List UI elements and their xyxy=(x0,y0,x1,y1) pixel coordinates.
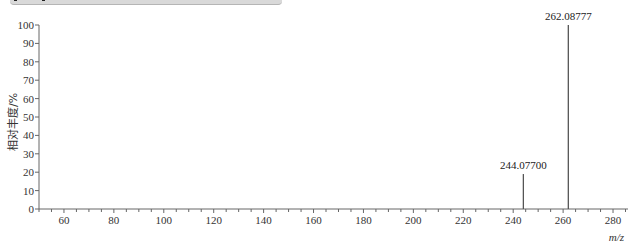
y-tick-label: 70 xyxy=(23,74,35,86)
y-tick-label: 40 xyxy=(23,129,35,141)
y-tick-label: 20 xyxy=(23,166,35,178)
y-tick-label: 30 xyxy=(23,148,35,160)
y-tick-label: 100 xyxy=(18,19,35,31)
y-axis-label: 相对丰度/% xyxy=(6,93,20,151)
x-tick-label: 60 xyxy=(58,214,70,226)
y-tick-label: 0 xyxy=(29,203,35,215)
x-tick-label: 160 xyxy=(305,214,322,226)
x-tick-label: 140 xyxy=(255,214,272,226)
x-tick-label: 260 xyxy=(555,214,572,226)
peak-label: 244.07700 xyxy=(500,159,547,171)
x-tick-label: 280 xyxy=(605,214,622,226)
x-tick-label: 100 xyxy=(156,214,173,226)
x-tick-label: 80 xyxy=(108,214,120,226)
x-tick-label: 220 xyxy=(455,214,472,226)
x-tick-label: 200 xyxy=(405,214,422,226)
x-tick-label: 180 xyxy=(355,214,372,226)
x-tick-label: 240 xyxy=(505,214,522,226)
y-tick-label: 60 xyxy=(23,93,35,105)
mass-spectrum-chart: 0102030405060708090100608010012014016018… xyxy=(0,0,633,247)
x-axis-label: m/z xyxy=(609,231,625,243)
y-tick-label: 10 xyxy=(23,185,35,197)
peak-label: 262.08777 xyxy=(545,10,592,22)
y-tick-label: 80 xyxy=(23,56,35,68)
x-tick-label: 120 xyxy=(205,214,222,226)
y-tick-label: 50 xyxy=(23,111,35,123)
y-tick-label: 90 xyxy=(23,37,35,49)
